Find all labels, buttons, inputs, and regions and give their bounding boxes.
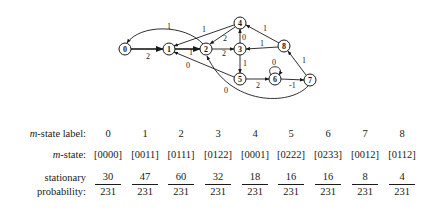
node-label-2: 2 (204, 45, 208, 54)
cell-label-7: 7 (345, 128, 385, 139)
prob-label-line1: stationary (37, 171, 86, 185)
edge-label-3-5: 1 (243, 59, 247, 68)
cell-state-6: [0233] (308, 149, 348, 160)
cell-state-0: [0000] (88, 149, 128, 160)
node-label-7: 7 (308, 76, 312, 85)
edge-label-8-4: 1 (263, 24, 267, 33)
cell-label-0: 0 (88, 128, 128, 139)
edge-label-5-1: 0 (186, 61, 190, 70)
cell-state-4: [0001] (235, 149, 275, 160)
node-label-4: 4 (238, 19, 242, 28)
node-label-3: 3 (238, 45, 242, 54)
row-label-state: m-state: (53, 149, 86, 160)
prob-label-line2: probability: (37, 185, 86, 199)
row-probability: stationary probability: 30231 47231 6023… (0, 171, 437, 211)
cell-label-2: 2 (161, 128, 201, 139)
cell-label-4: 4 (235, 128, 275, 139)
node-label-0: 0 (123, 45, 127, 54)
cell-label-6: 6 (308, 128, 348, 139)
edge-label-6-6: 0 (272, 58, 276, 67)
fraction-6: 16231 (313, 171, 343, 198)
edge-6-7 (281, 79, 304, 80)
label-suffix: -state label: (37, 128, 86, 139)
edge-label-2-0: 1 (167, 22, 171, 31)
edge-label-8-3: 1 (260, 39, 264, 48)
state-suffix: -state: (60, 149, 86, 160)
cell-state-3: [0122] (198, 149, 238, 160)
cell-label-3: 3 (198, 128, 238, 139)
cell-state-2: [0111] (161, 149, 201, 160)
edge-label-2-3: 2 (222, 49, 226, 58)
cell-state-1: [0011] (125, 149, 165, 160)
edge-label-5-6: 2 (256, 81, 260, 90)
edge-label-4-2: 2 (223, 34, 227, 43)
fraction-3: 32231 (203, 171, 233, 198)
cell-state-8: [0112] (382, 149, 422, 160)
fraction-0: 30231 (93, 171, 123, 198)
fraction-7: 8231 (350, 171, 380, 198)
fraction-1: 47231 (130, 171, 160, 198)
cell-state-7: [0012] (345, 149, 385, 160)
fraction-5: 16231 (276, 171, 306, 198)
fraction-4: 18231 (240, 171, 270, 198)
row-label-probability: stationary probability: (37, 171, 86, 199)
edge-label-7-8: 1 (302, 56, 306, 65)
state-transition-graph: 2 1 2 0 1 2 1 1 1 2 0 -1 1 0 0 1 0 1 2 3… (0, 0, 437, 110)
row-label-state-label: m-state label: (30, 128, 86, 139)
node-label-5: 5 (238, 75, 242, 84)
cell-state-5: [0222] (271, 149, 311, 160)
edge-label-7-2: 0 (224, 86, 228, 95)
fraction-2: 60231 (166, 171, 196, 198)
fraction-8: 4231 (387, 171, 417, 198)
edge-label-0-1: 2 (146, 52, 150, 61)
row-state-label: m-state label: 0 1 2 3 4 5 6 7 8 (0, 128, 437, 144)
row-state: m-state: [0000] [0011] [0111] [0122] [00… (0, 149, 437, 165)
node-label-8: 8 (282, 42, 286, 51)
cell-label-1: 1 (125, 128, 165, 139)
edge-label-3-4: 0 (242, 33, 246, 42)
edge-7-2 (207, 56, 308, 98)
node-label-6: 6 (273, 75, 277, 84)
cell-label-5: 5 (271, 128, 311, 139)
node-label-1: 1 (167, 45, 171, 54)
edge-label-4-1: 1 (202, 25, 206, 34)
edge-2-0 (127, 29, 203, 44)
edge-label-1-2: 1 (189, 48, 193, 57)
cell-label-8: 8 (382, 128, 422, 139)
edge-label-6-7: -1 (289, 81, 296, 90)
